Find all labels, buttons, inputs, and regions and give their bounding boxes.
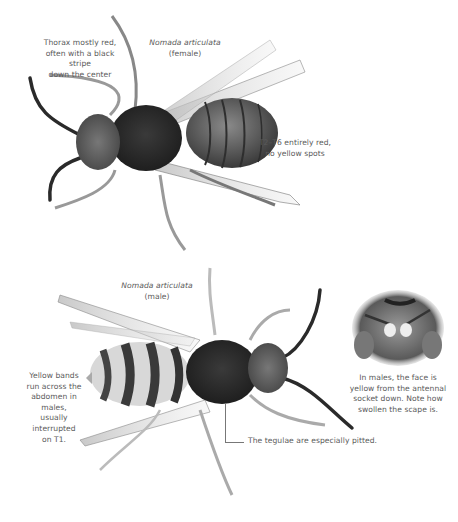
caption-tegulae: The tegulae are especially pitted. [248,436,388,447]
male-bee-photo [58,268,352,495]
caption-line: on T1. [18,435,90,446]
caption-female-abdomen: T2–T6 entirely red, no yellow spots [250,138,340,159]
caption-female-thorax: Thorax mostly red, often with a black st… [34,38,126,80]
caption-line: no yellow spots [250,149,340,160]
caption-male-face: In males, the face is yellow from the an… [348,373,448,415]
caption-line: usually interrupted [18,413,90,434]
tegulae-leader-line [225,404,244,443]
caption-line: swollen the scape is. [348,405,448,416]
caption-line: abdomen in males, [18,392,90,413]
caption-line: yellow from the antennal [348,384,448,395]
caption-line: run across the [18,382,90,393]
caption-line: often with a black stripe [34,49,126,70]
caption-line: Thorax mostly red, [34,38,126,49]
male-face-inset-photo [352,290,444,366]
caption-line: T2–T6 entirely red, [250,138,340,149]
caption-line: down the center [34,70,126,81]
label-female-species: Nomada articulata (female) [140,38,230,59]
species-name: Nomada articulata [121,281,192,290]
caption-male-abdomen: Yellow bands run across the abdomen in m… [18,371,90,445]
caption-line: socket down. Note how [348,394,448,405]
label-male-species: Nomada articulata (male) [112,281,202,302]
species-name: Nomada articulata [149,38,220,47]
caption-line: Yellow bands [18,371,90,382]
sex-label: (male) [112,292,202,303]
sex-label: (female) [140,49,230,60]
caption-line: In males, the face is [348,373,448,384]
